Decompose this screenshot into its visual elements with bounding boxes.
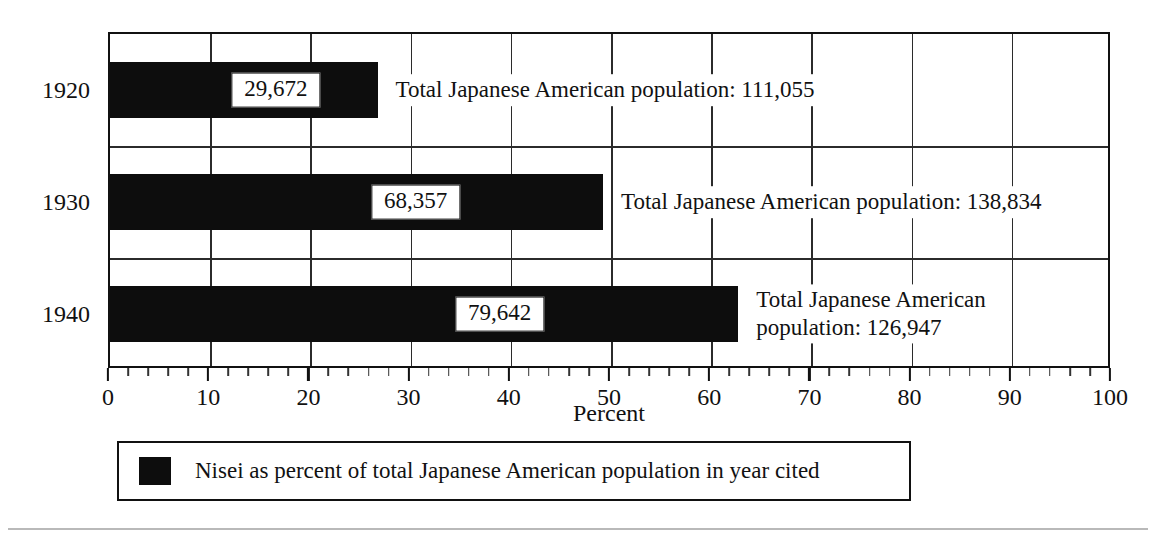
tick-minor-36 xyxy=(468,368,470,376)
annotation-1930: Total Japanese American population: 138,… xyxy=(617,186,1046,218)
tick-minor-94 xyxy=(1049,368,1051,376)
bar-1930 xyxy=(110,174,603,230)
tick-major-90 xyxy=(1009,368,1011,381)
tick-minor-76 xyxy=(869,368,871,376)
tick-minor-4 xyxy=(147,368,149,376)
tick-minor-16 xyxy=(268,368,270,376)
tick-minor-58 xyxy=(688,368,690,376)
tick-major-30 xyxy=(407,368,409,381)
chart-legend: Nisei as percent of total Japanese Ameri… xyxy=(117,441,911,501)
legend-label-nisei: Nisei as percent of total Japanese Ameri… xyxy=(195,458,820,484)
tick-major-20 xyxy=(307,368,309,381)
tick-major-60 xyxy=(708,368,710,381)
tick-minor-32 xyxy=(428,368,430,376)
tick-minor-34 xyxy=(448,368,450,376)
tick-minor-74 xyxy=(849,368,851,376)
bar-1940 xyxy=(110,286,738,342)
tick-minor-84 xyxy=(949,368,951,376)
tick-minor-38 xyxy=(488,368,490,376)
category-label-1920: 1920 xyxy=(0,77,90,104)
tick-minor-56 xyxy=(668,368,670,376)
chart-figure: 192029,672Total Japanese American popula… xyxy=(0,0,1155,538)
tick-minor-66 xyxy=(769,368,771,376)
chart-row-1920: 192029,672Total Japanese American popula… xyxy=(110,34,1108,146)
tick-minor-92 xyxy=(1029,368,1031,376)
tick-major-50 xyxy=(608,368,610,381)
value-label-1920: 29,672 xyxy=(231,73,320,108)
tick-minor-86 xyxy=(969,368,971,376)
tick-minor-18 xyxy=(288,368,290,376)
tick-minor-44 xyxy=(548,368,550,376)
tick-major-80 xyxy=(908,368,910,381)
tick-minor-68 xyxy=(789,368,791,376)
tick-minor-2 xyxy=(127,368,129,376)
annotation-1940: Total Japanese American population: 126,… xyxy=(752,284,990,343)
value-label-1930: 68,357 xyxy=(371,185,460,220)
tick-minor-6 xyxy=(167,368,169,376)
tick-minor-8 xyxy=(187,368,189,376)
tick-minor-72 xyxy=(829,368,831,376)
tick-minor-48 xyxy=(588,368,590,376)
tick-minor-64 xyxy=(748,368,750,376)
category-label-1940: 1940 xyxy=(0,301,90,328)
tick-minor-42 xyxy=(528,368,530,376)
tick-minor-52 xyxy=(628,368,630,376)
chart-row-1940: 194079,642Total Japanese American popula… xyxy=(110,258,1108,370)
tick-minor-28 xyxy=(388,368,390,376)
tick-minor-24 xyxy=(348,368,350,376)
tick-minor-22 xyxy=(328,368,330,376)
category-label-1930: 1930 xyxy=(0,189,90,216)
tick-minor-98 xyxy=(1089,368,1091,376)
tick-minor-12 xyxy=(227,368,229,376)
tick-major-10 xyxy=(207,368,209,381)
tick-minor-54 xyxy=(648,368,650,376)
value-label-1940: 79,642 xyxy=(455,297,544,332)
tick-minor-62 xyxy=(728,368,730,376)
annotation-1920: Total Japanese American population: 111,… xyxy=(392,74,819,106)
tick-major-40 xyxy=(508,368,510,381)
page-footer-rule xyxy=(8,528,1148,530)
tick-minor-46 xyxy=(568,368,570,376)
chart-row-1930: 193068,357Total Japanese American popula… xyxy=(110,146,1108,258)
tick-minor-78 xyxy=(889,368,891,376)
plot-area: 192029,672Total Japanese American popula… xyxy=(108,32,1110,368)
tick-major-0 xyxy=(107,368,109,381)
tick-minor-26 xyxy=(368,368,370,376)
tick-minor-14 xyxy=(247,368,249,376)
tick-major-100 xyxy=(1109,368,1111,381)
legend-swatch-nisei xyxy=(139,457,171,485)
tick-minor-96 xyxy=(1069,368,1071,376)
tick-minor-82 xyxy=(929,368,931,376)
x-axis-title: Percent xyxy=(108,400,1110,427)
tick-major-70 xyxy=(808,368,810,381)
tick-minor-88 xyxy=(989,368,991,376)
